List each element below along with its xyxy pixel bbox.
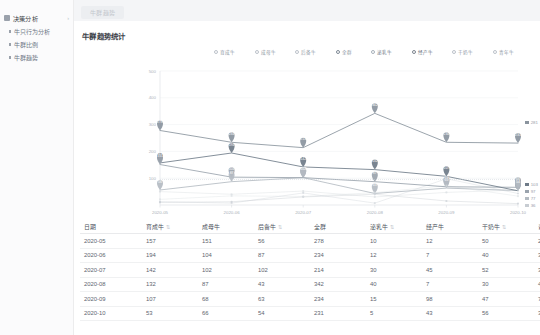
col-header-miruniu[interactable]: 泌乳牛⇅ [366, 219, 422, 234]
sort-icon[interactable]: ⇅ [390, 225, 394, 230]
table-row[interactable]: 2020-09107686323415984772 [80, 292, 540, 307]
data-point-dot[interactable] [231, 202, 233, 204]
col-header-gannainiu[interactable]: 干奶牛⇅ [478, 219, 534, 234]
x-axis-tick-label: 2020-06 [224, 210, 241, 215]
table-row[interactable]: 2020-105366542315435633 [80, 306, 540, 321]
cell-value: 45 [422, 263, 478, 278]
legend-item-jingchanniu[interactable]: 经产牛 [412, 49, 433, 55]
table-row[interactable]: 2020-0813287433424073046 [80, 277, 540, 292]
data-point-dot[interactable] [445, 185, 447, 187]
data-point-marker[interactable]: 342 [372, 103, 378, 113]
data-point-dot[interactable] [159, 201, 161, 203]
cell-date: 2020-10 [80, 306, 142, 321]
data-point-dot[interactable] [517, 189, 519, 191]
col-header-qingnianniu[interactable]: 青年牛 [534, 219, 540, 234]
data-point-marker[interactable]: 87 [372, 171, 378, 181]
data-point-dot[interactable] [445, 191, 447, 193]
cell-value: 43 [422, 306, 478, 321]
col-label: 干奶牛 [482, 224, 500, 230]
cell-value: 21 [534, 234, 540, 249]
data-point-marker[interactable]: 234 [229, 132, 235, 142]
data-point-dot[interactable] [231, 195, 233, 197]
cell-date: 2020-06 [80, 248, 142, 263]
data-point-dot[interactable] [159, 198, 161, 200]
col-header-chengmuniu[interactable]: 成母牛 [198, 219, 254, 234]
series-color-swatch [525, 121, 529, 124]
col-label: 全群 [314, 224, 326, 230]
y-axis-tick-label: 300 [149, 122, 157, 127]
data-point-dot[interactable] [302, 190, 304, 192]
data-point-marker[interactable]: 278 [157, 120, 163, 130]
data-point-dot[interactable] [374, 196, 376, 198]
data-point-dot[interactable] [517, 192, 519, 194]
col-label: 后备牛 [258, 224, 276, 230]
legend-item-chengmuniu[interactable]: 成母牛 [255, 49, 276, 55]
data-point-dot[interactable] [445, 200, 447, 202]
sidebar-item-herd-ratio[interactable]: 牛群比例 [0, 38, 73, 51]
page-title: 牛群趋势统计 [82, 30, 126, 41]
data-point-marker[interactable]: 231 [515, 133, 521, 143]
legend-item-miruniu[interactable]: 泌乳牛 [371, 49, 392, 55]
x-axis-tick-label: 2020-08 [367, 210, 384, 215]
data-point-marker[interactable]: 107 [443, 166, 449, 176]
legend-label: 青年牛 [499, 49, 514, 55]
legend-item-quanqun[interactable]: 全群 [336, 49, 352, 55]
series-value: 97 [531, 188, 536, 195]
table-row[interactable]: 2020-051571515627810125021 [80, 234, 540, 249]
table-row[interactable]: 2020-0714210210221430455232 [80, 263, 540, 278]
sort-icon[interactable]: ⇅ [502, 225, 506, 230]
tab-herd-trend[interactable]: 牛群趋势 [81, 6, 124, 19]
cell-value: 194 [142, 248, 198, 263]
data-point-marker[interactable]: 102 [300, 167, 306, 177]
table-row[interactable]: 2020-06194104872341274034 [80, 248, 540, 263]
legend-item-yuchengniu[interactable]: 育成牛 [214, 49, 235, 55]
data-point-marker[interactable]: 214 [300, 137, 306, 147]
sidebar-item-behavior-analysis[interactable]: 牛只行为分析 [0, 25, 73, 38]
series-color-swatch [525, 197, 529, 200]
legend-item-qingnianniu[interactable]: 青年牛 [493, 49, 514, 55]
legend-item-gannainiu[interactable]: 干奶牛 [452, 49, 473, 55]
chart-legend: 育成牛 成母牛 后备牛 全群 泌乳牛 经产牛 [214, 49, 514, 55]
series-value-flag: 97 [525, 188, 538, 195]
y-axis-tick-label: 400 [149, 95, 157, 100]
table-head: 日期 育成牛⇅ 成母牛 后备牛⇅ 全群 泌乳牛⇅ 经产牛 干奶牛⇅ 青年牛 [80, 219, 540, 234]
col-header-quanqun[interactable]: 全群 [310, 219, 366, 234]
herd-trend-line-chart: 1002003004005002020-052020-062020-072020… [74, 57, 540, 235]
data-point-dot[interactable] [302, 192, 304, 194]
data-point-value: 107 [443, 166, 449, 170]
data-table-wrapper: 日期 育成牛⇅ 成母牛 后备牛⇅ 全群 泌乳牛⇅ 经产牛 干奶牛⇅ 青年牛 20… [80, 219, 534, 321]
data-point-dot[interactable] [159, 191, 161, 193]
cell-value: 12 [366, 248, 422, 263]
legend-item-houbeiniu[interactable]: 后备牛 [295, 49, 316, 55]
data-point-dot[interactable] [374, 202, 376, 204]
col-header-houbeiniu[interactable]: 后备牛⇅ [254, 219, 310, 234]
sort-icon[interactable]: ⇅ [166, 225, 170, 230]
series-value-flag: 36 [525, 202, 538, 209]
sort-icon[interactable]: ⇅ [278, 225, 282, 230]
cell-value: 142 [142, 263, 198, 278]
content-card: 牛群趋势统计 育成牛 成母牛 后备牛 全群 泌乳牛 [74, 21, 540, 335]
data-point-dot[interactable] [374, 192, 376, 194]
sidebar-group-decision-analysis[interactable]: 决策分析 › [0, 11, 73, 25]
col-label: 经产牛 [426, 224, 444, 230]
data-point-dot[interactable] [302, 195, 304, 197]
data-point-dot[interactable] [517, 203, 519, 205]
cell-value: 50 [478, 234, 534, 249]
col-header-jingchanniu[interactable]: 经产牛 [422, 219, 478, 234]
data-point-value: 87 [230, 171, 234, 175]
cell-value: 151 [198, 234, 254, 249]
col-header-yuchengniu[interactable]: 育成牛⇅ [142, 219, 198, 234]
data-point-marker[interactable]: 87 [229, 171, 235, 181]
series-line-青年牛 [160, 186, 518, 200]
tab-bar: 牛群趋势 [74, 0, 540, 21]
data-point-value: 102 [300, 167, 306, 171]
sidebar-item-herd-trend[interactable]: 牛群趋势 [0, 51, 73, 64]
data-point-marker[interactable]: 56 [157, 180, 163, 190]
data-point-marker[interactable]: 234 [443, 132, 449, 142]
data-point-marker[interactable]: 132 [372, 159, 378, 169]
legend-marker-icon [371, 50, 375, 54]
data-point-marker[interactable]: 142 [300, 157, 306, 167]
series-value-flag: 77 [525, 195, 538, 202]
data-point-dot[interactable] [517, 195, 519, 197]
sidebar-group-label: 决策分析 [13, 14, 64, 23]
